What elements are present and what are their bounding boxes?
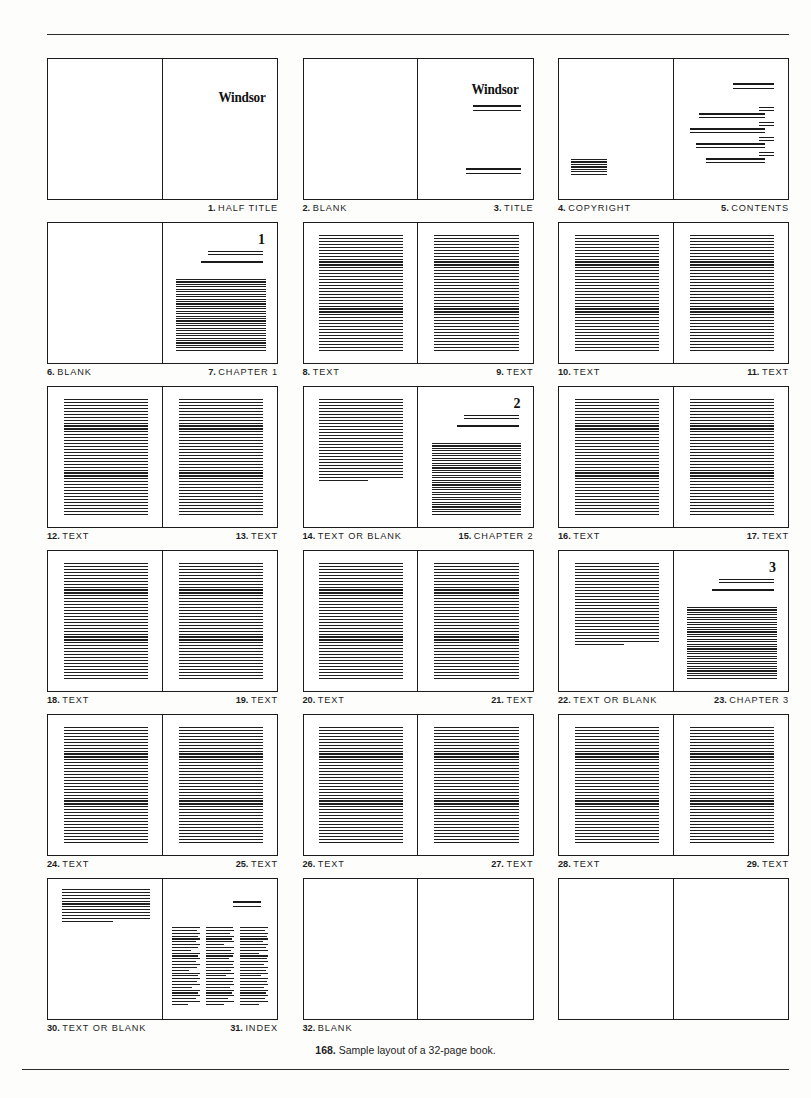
spread-cell[interactable]: 4.COPYRIGHT5.CONTENTS	[558, 58, 789, 216]
spread-left-page[interactable]	[559, 59, 674, 199]
book-spread[interactable]	[47, 550, 278, 692]
book-spread[interactable]	[47, 714, 278, 856]
book-spread[interactable]: 3	[558, 550, 789, 692]
book-spread[interactable]	[558, 878, 789, 1020]
spread-right-page[interactable]: Windsor	[163, 59, 278, 199]
book-spread[interactable]	[303, 222, 534, 364]
spread-right-page[interactable]	[418, 879, 533, 1019]
spread-left-page[interactable]	[48, 715, 163, 855]
spread-right-page[interactable]	[674, 59, 789, 199]
book-spread[interactable]: Windsor	[303, 58, 534, 200]
spread-right-page[interactable]	[418, 551, 533, 691]
spread-cell[interactable]: 214.TEXT OR BLANK15.CHAPTER 2	[303, 386, 534, 544]
text-line	[179, 481, 264, 482]
spread-left-page[interactable]	[48, 59, 163, 199]
book-spread[interactable]: 1	[47, 222, 278, 364]
spread-cell[interactable]: Windsor.1.HALF TITLE	[47, 58, 278, 216]
index-entry-line	[206, 933, 231, 934]
spread-right-page[interactable]: 3	[674, 551, 789, 691]
spread-cell[interactable]: 26.TEXT27.TEXT	[303, 714, 534, 872]
spread-right-page[interactable]: 1	[163, 223, 278, 363]
page-content-blank	[304, 879, 418, 1019]
spread-right-page[interactable]	[418, 715, 533, 855]
book-spread[interactable]	[558, 222, 789, 364]
spread-cell[interactable]: ..	[558, 878, 789, 1036]
text-line	[575, 350, 659, 351]
spread-cell[interactable]: 24.TEXT25.TEXT	[47, 714, 278, 872]
text-line	[179, 622, 264, 623]
book-spread[interactable]	[558, 58, 789, 200]
spread-cell[interactable]: 8.TEXT9.TEXT	[303, 222, 534, 380]
spread-left-page[interactable]	[48, 879, 163, 1019]
spread-right-page[interactable]	[674, 223, 789, 363]
spread-left-page[interactable]	[559, 715, 674, 855]
text-line	[434, 332, 519, 333]
book-spread[interactable]: 2	[303, 386, 534, 528]
text-line	[64, 733, 148, 734]
spread-right-page[interactable]: Windsor	[418, 59, 533, 199]
text-line	[690, 742, 775, 743]
text-line	[319, 592, 403, 593]
spread-right-page[interactable]	[674, 715, 789, 855]
spread-right-page[interactable]	[418, 223, 533, 363]
spread-left-page[interactable]	[559, 879, 674, 1019]
spread-right-page[interactable]	[674, 879, 789, 1019]
index-entry-line	[172, 944, 200, 945]
spread-right-page[interactable]	[163, 715, 278, 855]
text-line	[434, 792, 519, 793]
spread-right-page[interactable]: 2	[418, 387, 533, 527]
book-spread[interactable]	[303, 878, 534, 1020]
copyright-lines	[571, 159, 607, 175]
spread-cell[interactable]: 10.TEXT11.TEXT	[558, 222, 789, 380]
book-spread[interactable]	[47, 386, 278, 528]
spread-left-page[interactable]	[48, 387, 163, 527]
spread-left-page[interactable]	[559, 223, 674, 363]
spread-left-page[interactable]	[304, 387, 419, 527]
spread-cell[interactable]: 322.TEXT OR BLANK23.CHAPTER 3	[558, 550, 789, 708]
spread-left-page[interactable]	[559, 387, 674, 527]
spread-cell[interactable]: Windsor2.BLANK3.TITLE	[303, 58, 534, 216]
spread-cell[interactable]: 18.TEXT19.TEXT	[47, 550, 278, 708]
spread-left-page[interactable]	[304, 223, 419, 363]
spread-cell[interactable]: 32.BLANK.	[303, 878, 534, 1036]
text-line	[179, 806, 264, 807]
book-spread[interactable]: Windsor	[47, 58, 278, 200]
text-line	[687, 631, 776, 632]
spread-cell[interactable]: 30.TEXT OR BLANK31.INDEX	[47, 878, 278, 1036]
spread-cell[interactable]: 16.TEXT17.TEXT	[558, 386, 789, 544]
spread-left-page[interactable]	[304, 551, 419, 691]
spread-left-page[interactable]	[304, 879, 419, 1019]
book-spread[interactable]	[558, 386, 789, 528]
spread-cell[interactable]: 16.BLANK7.CHAPTER 1	[47, 222, 278, 380]
chapter-rule-thin	[719, 579, 774, 580]
text-line	[434, 285, 519, 286]
book-spread[interactable]	[303, 550, 534, 692]
spread-cell[interactable]: 12.TEXT13.TEXT	[47, 386, 278, 544]
spread-cell[interactable]: 28.TEXT29.TEXT	[558, 714, 789, 872]
spread-left-page[interactable]	[304, 59, 419, 199]
spread-right-page[interactable]	[163, 879, 278, 1019]
book-spread[interactable]	[47, 878, 278, 1020]
spread-left-page[interactable]	[304, 715, 419, 855]
text-line	[179, 502, 264, 503]
text-line	[575, 458, 659, 459]
spread-left-page[interactable]	[48, 551, 163, 691]
text-line	[64, 783, 148, 784]
text-line	[319, 477, 403, 478]
text-line	[687, 612, 776, 613]
text-line	[575, 596, 659, 597]
text-line	[690, 259, 775, 260]
spread-left-page[interactable]	[48, 223, 163, 363]
spread-right-page[interactable]	[163, 551, 278, 691]
text-line	[319, 347, 403, 348]
text-line	[690, 253, 775, 254]
spread-cell[interactable]: 20.TEXT21.TEXT	[303, 550, 534, 708]
text-line	[432, 455, 521, 456]
spread-left-page[interactable]	[559, 551, 674, 691]
spread-right-page[interactable]	[163, 387, 278, 527]
spread-right-page[interactable]	[674, 387, 789, 527]
text-line	[571, 161, 607, 162]
book-spread[interactable]	[303, 714, 534, 856]
book-spread[interactable]	[558, 714, 789, 856]
page-content-text-partial	[559, 551, 673, 691]
